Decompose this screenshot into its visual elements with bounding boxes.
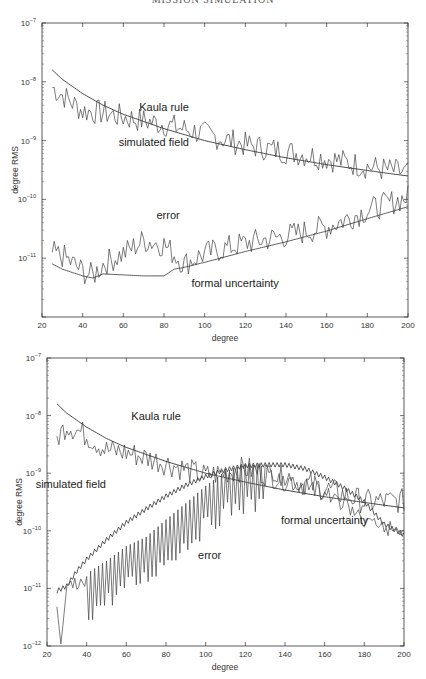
x-tick-label: 20 — [38, 321, 47, 330]
simulated-field-line — [52, 87, 408, 178]
x-tick-label: 80 — [162, 650, 171, 659]
y-tick-label: 10−10 — [23, 525, 41, 536]
x-tick-label: 100 — [199, 650, 213, 659]
top-annotations: Kaula rulesimulated fielderrorformal unc… — [119, 101, 280, 289]
x-tick-label: 180 — [358, 650, 372, 659]
y-tick-label: 10−7 — [26, 352, 41, 363]
x-tick-label: 80 — [160, 321, 169, 330]
x-tick-label: 140 — [279, 321, 293, 330]
top-y-axis-label: degree RMS — [10, 146, 20, 194]
x-tick-label: 200 — [401, 321, 415, 330]
y-tick-label: 10−8 — [26, 410, 41, 421]
annotation-simulated-field: simulated field — [36, 478, 106, 490]
top-chart: 2040608010012014016018020010−710−810−910… — [10, 17, 415, 343]
figure-canvas: 2040608010012014016018020010−710−810−910… — [0, 0, 426, 679]
y-tick-label: 10−10 — [18, 193, 36, 204]
top-plot-series — [52, 70, 408, 284]
annotation-error: error — [198, 549, 222, 561]
error-line — [57, 464, 404, 644]
annotation-formal-uncertainty: formal uncertainty — [191, 277, 279, 289]
y-tick-label: 10−12 — [23, 640, 41, 651]
bottom-axis-ticks: 2040608010012014016018020010−710−810−910… — [23, 352, 411, 659]
x-tick-label: 40 — [78, 321, 87, 330]
error-line — [52, 185, 408, 283]
annotation-Kaula-rule: Kaula rule — [139, 101, 189, 113]
bottom-x-axis-label: degree — [212, 662, 239, 672]
x-tick-label: 140 — [278, 650, 292, 659]
x-tick-label: 200 — [397, 650, 411, 659]
x-tick-label: 160 — [320, 321, 334, 330]
x-tick-label: 60 — [119, 321, 128, 330]
bottom-chart: 2040608010012014016018020010−710−810−910… — [14, 352, 411, 672]
annotation-Kaula-rule: Kaula rule — [131, 410, 181, 422]
y-tick-label: 10−9 — [26, 467, 41, 478]
top-plot-frame — [42, 23, 408, 317]
x-tick-label: 40 — [82, 650, 91, 659]
formal-uncertainty-line — [57, 463, 404, 594]
top-x-axis-label: degree — [212, 333, 239, 343]
x-tick-label: 120 — [239, 321, 253, 330]
annotation-error: error — [156, 209, 180, 221]
x-tick-label: 180 — [361, 321, 375, 330]
x-tick-label: 120 — [239, 650, 253, 659]
y-tick-label: 10−11 — [23, 582, 41, 593]
y-tick-label: 10−9 — [21, 135, 36, 146]
annotation-simulated-field: simulated field — [119, 136, 189, 148]
x-tick-label: 20 — [43, 650, 52, 659]
y-tick-label: 10−8 — [21, 76, 36, 87]
bottom-y-axis-label: degree RMS — [14, 478, 24, 526]
annotation-formal-uncertainty: formal uncertainty — [281, 514, 369, 526]
x-tick-label: 160 — [318, 650, 332, 659]
x-tick-label: 60 — [122, 650, 131, 659]
y-tick-label: 10−7 — [21, 17, 36, 28]
y-tick-label: 10−11 — [18, 252, 36, 263]
x-tick-label: 100 — [198, 321, 212, 330]
